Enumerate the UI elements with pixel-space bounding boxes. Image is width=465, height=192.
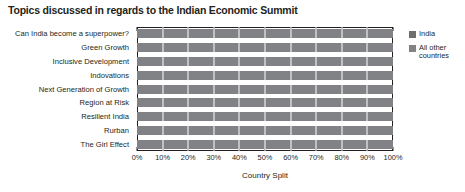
gridline (213, 27, 214, 151)
chart-figure: Topics discussed in regards to the India… (0, 0, 465, 192)
category-label: Inclusive Development (0, 57, 133, 66)
category-label: Green Growth (0, 43, 133, 52)
plot-area-wrapper (137, 27, 393, 151)
category-label: The Girl Effect (0, 140, 133, 149)
x-tick-label: 50% (258, 153, 273, 162)
x-tick-label: 80% (334, 153, 349, 162)
gridline (367, 27, 368, 151)
x-tick-label: 10% (155, 153, 170, 162)
x-axis-title: Country Split (137, 171, 393, 180)
x-tick-label: 60% (283, 153, 298, 162)
gridline (188, 27, 189, 151)
category-axis-labels: Can India become a superpower?Green Grow… (0, 27, 133, 151)
category-label: Resilient India (0, 112, 133, 121)
x-tick-label: 30% (206, 153, 221, 162)
x-axis-tick-labels: 0%10%20%30%40%50%60%70%80%90%100% (137, 153, 393, 165)
legend-label: All other countries (419, 44, 465, 61)
category-label: Region at Risk (0, 98, 133, 107)
x-tick-label: 20% (181, 153, 196, 162)
x-tick-label: 70% (309, 153, 324, 162)
gridline (341, 27, 342, 151)
gridline (162, 27, 163, 151)
category-label: Next Generation of Growth (0, 85, 133, 94)
legend-swatch-icon (409, 31, 416, 38)
x-tick-label: 0% (132, 153, 143, 162)
chart-legend: IndiaAll other countries (409, 30, 465, 66)
x-tick-label: 100% (384, 153, 403, 162)
legend-item[interactable]: All other countries (409, 44, 465, 61)
gridline (316, 27, 317, 151)
category-label: Indovations (0, 71, 133, 80)
x-tick-label: 40% (232, 153, 247, 162)
category-label: Can India become a superpower? (0, 29, 133, 38)
x-tick-label: 90% (360, 153, 375, 162)
gridline (290, 27, 291, 151)
legend-item[interactable]: India (409, 30, 465, 39)
legend-label: India (419, 30, 435, 39)
gridline (239, 27, 240, 151)
legend-swatch-icon (409, 45, 416, 52)
chart-title: Topics discussed in regards to the India… (8, 4, 297, 16)
gridline (265, 27, 266, 151)
category-label: Rurban (0, 126, 133, 135)
